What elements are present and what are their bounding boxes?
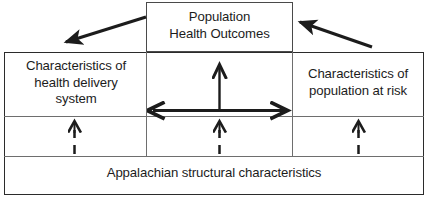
- health-delivery-system-label: Characteristics of health delivery syste…: [5, 58, 147, 108]
- population-at-risk-label: Characteristics of population at risk: [292, 66, 424, 99]
- population-health-outcomes-box: Population Health Outcomes: [146, 2, 293, 52]
- appalachian-structural-characteristics-label: Appalachian structural characteristics: [4, 165, 424, 182]
- rule-middle-band-top: [4, 116, 424, 117]
- diagram-canvas: Population Health Outcomes Characteristi…: [0, 0, 433, 203]
- population-to-outcomes-arrow: [300, 22, 372, 47]
- population-health-outcomes-label: Population Health Outcomes: [147, 9, 292, 42]
- outcomes-to-health-system-arrow: [66, 17, 146, 42]
- rule-bottom-band-top: [4, 156, 424, 157]
